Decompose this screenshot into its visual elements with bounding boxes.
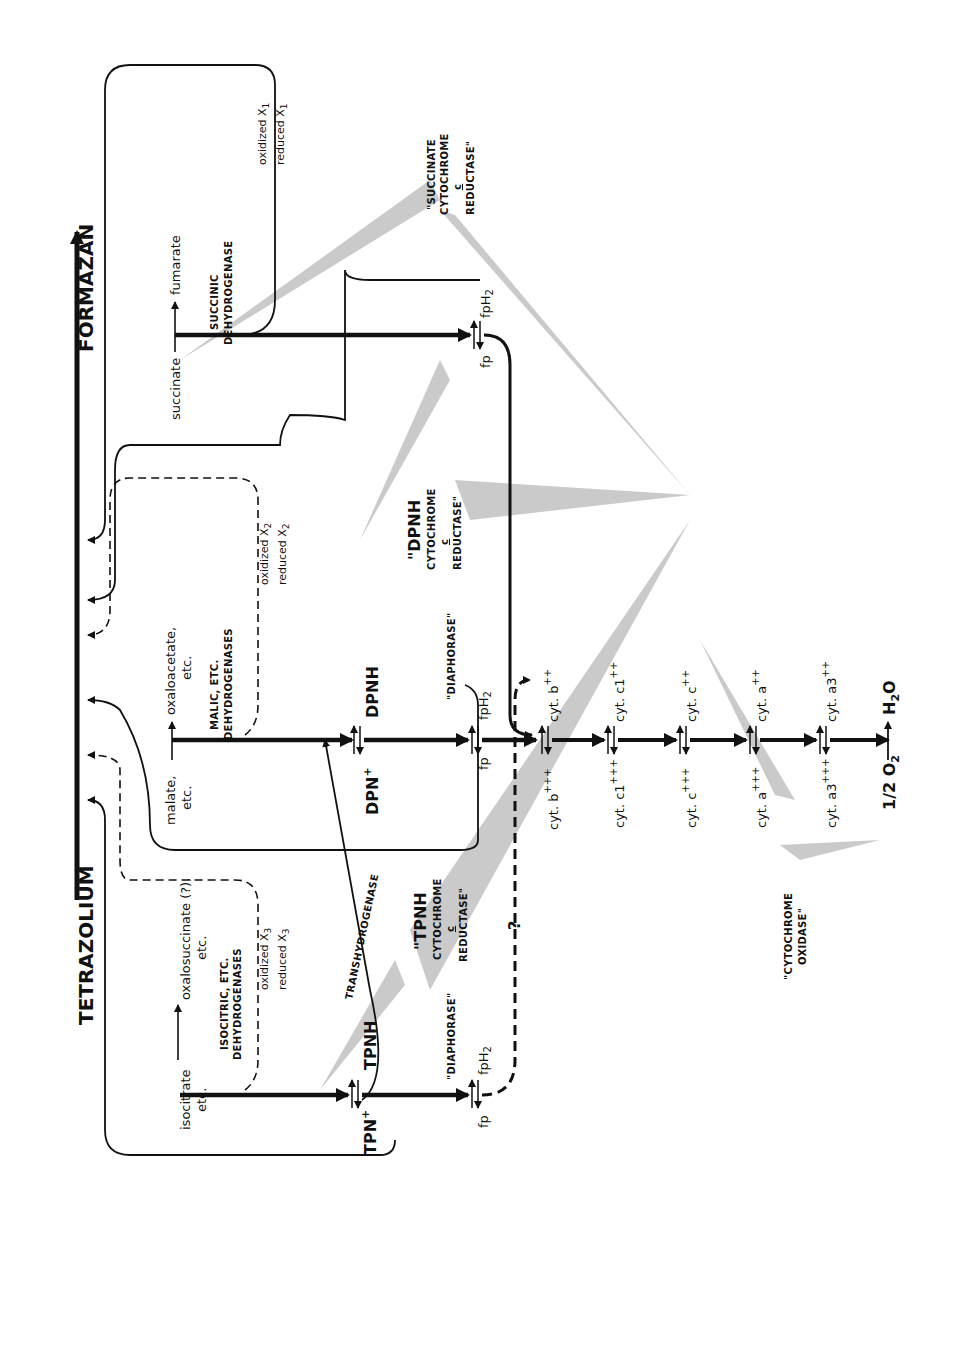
svg-text:DPNH: DPNH xyxy=(363,666,382,718)
unknown-link-label: ? xyxy=(505,921,524,930)
svg-text:reduced X2: reduced X2 xyxy=(276,523,291,585)
svg-text:cyt. c+++: cyt. c+++ xyxy=(680,768,699,829)
svg-text:"DIAPHORASE": "DIAPHORASE" xyxy=(446,993,457,1080)
svg-text:cyt. c1+++: cyt. c1+++ xyxy=(608,759,627,828)
svg-text:fumarate: fumarate xyxy=(168,235,183,295)
svg-text:SUCCINIC: SUCCINIC xyxy=(209,274,220,330)
svg-text:cyt. c1++: cyt. c1++ xyxy=(608,662,627,722)
svg-text:etc.: etc. xyxy=(179,656,194,680)
dpnh-cytochrome-c-reductase-label: "DPNH CYTOCHROME c REDUCTASE" xyxy=(405,488,463,570)
svg-text:"SUCCINATE: "SUCCINATE xyxy=(426,139,437,210)
svg-text:isocitrate: isocitrate xyxy=(178,1069,193,1130)
svg-text:c: c xyxy=(439,539,450,545)
terminal-oxygen-reduction: 1/2 O2 H2O xyxy=(880,680,902,810)
svg-text:REDUCTASE": REDUCTASE" xyxy=(452,496,463,570)
malate-pathway: malate, etc. oxaloacetate, etc. MALIC, E… xyxy=(163,523,536,825)
svg-text:cyt. a++: cyt. a++ xyxy=(750,669,769,722)
svg-text:OXIDASE": OXIDASE" xyxy=(797,908,808,965)
x1-to-tetrazolium xyxy=(88,65,275,540)
svg-text:fp: fp xyxy=(476,1115,491,1128)
svg-text:oxaloacetate,: oxaloacetate, xyxy=(163,627,178,715)
succinate-cytochrome-c-reductase-label: "SUCCINATE CYTOCHROME c REDUCTASE" xyxy=(426,133,476,215)
svg-text:TPN+: TPN+ xyxy=(359,1110,380,1155)
cytochrome-oxidase-label: "CYTOCHROME OXIDASE" xyxy=(783,893,808,980)
svg-text:"DPNH: "DPNH xyxy=(405,500,424,560)
svg-text:DPN+: DPN+ xyxy=(361,767,382,815)
svg-text:etc.: etc. xyxy=(194,936,209,960)
tpnh-cytochrome-c-reductase-label: "TPNH CYTOCHROME c REDUCTASE" xyxy=(411,878,469,962)
svg-text:oxidized X1: oxidized X1 xyxy=(256,103,271,165)
succinate-fp-to-cyt-b xyxy=(484,335,532,735)
svg-text:DEHYDROGENASES: DEHYDROGENASES xyxy=(223,628,234,740)
svg-text:DEHYDROGENASE: DEHYDROGENASE xyxy=(223,241,234,345)
svg-text:etc.: etc. xyxy=(179,786,194,810)
svg-text:ISOCITRIC, ETC.: ISOCITRIC, ETC. xyxy=(219,957,230,1050)
svg-text:1/2 O2: 1/2 O2 xyxy=(880,755,902,810)
svg-text:malate,: malate, xyxy=(163,776,178,825)
svg-text:c: c xyxy=(452,184,463,190)
svg-text:cyt. a3++: cyt. a3++ xyxy=(820,661,839,722)
svg-text:c: c xyxy=(445,926,456,932)
electron-transport-diagram: TETRAZOLIUM FORMAZAN isocitrate etc. oxa… xyxy=(0,0,958,1369)
svg-text:succinate: succinate xyxy=(168,358,183,420)
svg-text:fp: fp xyxy=(476,757,491,770)
dpn-fp-to-tetrazolium xyxy=(88,685,478,850)
svg-text:H2O: H2O xyxy=(880,680,902,715)
svg-text:REDUCTASE": REDUCTASE" xyxy=(465,141,476,215)
svg-text:fp: fp xyxy=(478,355,493,368)
svg-text:"CYTOCHROME: "CYTOCHROME xyxy=(783,893,794,980)
svg-text:cyt. b++: cyt. b++ xyxy=(542,669,561,722)
svg-text:fpH2: fpH2 xyxy=(476,691,493,720)
formazan-label: FORMAZAN xyxy=(74,224,98,352)
svg-text:etc.: etc. xyxy=(194,1088,209,1112)
svg-text:oxidized X2: oxidized X2 xyxy=(258,523,273,585)
svg-text:CYTOCHROME: CYTOCHROME xyxy=(439,133,450,215)
svg-text:cyt. a3+++: cyt. a3+++ xyxy=(820,758,839,828)
svg-text:reduced X1: reduced X1 xyxy=(274,103,289,165)
svg-text:CYTOCHROME: CYTOCHROME xyxy=(426,488,437,570)
svg-text:reduced X3: reduced X3 xyxy=(276,928,291,990)
svg-text:REDUCTASE": REDUCTASE" xyxy=(458,888,469,962)
svg-text:fpH2: fpH2 xyxy=(478,289,495,318)
svg-text:"TPNH: "TPNH xyxy=(411,892,430,950)
tetrazolium-label: TETRAZOLIUM xyxy=(74,865,98,1025)
svg-text:fpH2: fpH2 xyxy=(476,1046,493,1075)
svg-text:cyt. b+++: cyt. b+++ xyxy=(542,768,561,830)
svg-text:MALIC, ETC.: MALIC, ETC. xyxy=(209,660,220,731)
svg-text:oxalosuccinate (?),: oxalosuccinate (?), xyxy=(178,878,193,1000)
transhydrogenase-label: TRANSHYDROGENASE xyxy=(343,873,380,1000)
svg-text:"DIAPHORASE": "DIAPHORASE" xyxy=(446,613,457,700)
svg-text:CYTOCHROME: CYTOCHROME xyxy=(432,878,443,960)
svg-text:cyt. c++: cyt. c++ xyxy=(680,670,699,722)
svg-text:DEHYDROGENASES: DEHYDROGENASES xyxy=(232,948,243,1060)
svg-text:oxidized X3: oxidized X3 xyxy=(258,928,273,990)
